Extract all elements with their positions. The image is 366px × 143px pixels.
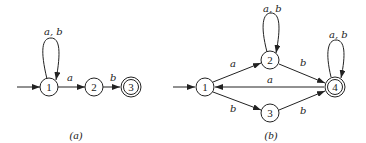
caption-b: (b) [265,129,278,142]
state-a-3-label: 3 [128,81,134,93]
diagram-a: a, b a b 1 2 3 (a) [17,26,141,142]
label-b-1-2: a [230,58,236,69]
label-b-4-4: a, b [329,29,348,40]
label-a-2-3: b [110,72,116,83]
state-b-2-label: 2 [267,54,273,66]
label-b-3-4: b [300,105,306,116]
edge-b-1-2 [213,63,261,82]
label-b-2-4: b [300,57,306,68]
state-b-1-label: 1 [202,81,208,93]
state-a-1-label: 1 [46,81,52,93]
label-b-1-3: b [230,103,236,114]
self-loop-b-4 [328,40,344,78]
self-loop-b-2 [263,13,279,53]
state-b-4-label: 4 [332,81,338,93]
diagram-b: a b a a, b b b a, b 1 2 3 4 (b) [173,3,348,142]
automata-figure: a, b a b 1 2 3 (a) a b a a, b b [0,0,366,143]
edge-b-1-3 [213,92,261,110]
state-b-3-label: 3 [267,107,273,119]
label-b-1-4: a [267,74,273,85]
self-loop-a-1 [43,38,59,80]
label-a-1-2: a [67,72,73,83]
label-a-1-1: a, b [44,26,63,37]
state-a-2-label: 2 [91,81,97,93]
caption-a: (a) [70,129,83,142]
label-b-2-2: a, b [263,3,282,14]
